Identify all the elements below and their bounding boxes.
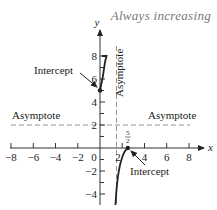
y-tick-label: −2 — [85, 165, 97, 177]
horizontal-asymptote-label-left: Asymptote — [12, 109, 60, 121]
svg-text:2: 2 — [126, 137, 130, 145]
svg-text:5: 5 — [126, 129, 130, 137]
x-intercept-annotation: Intercept — [130, 165, 169, 177]
x-tick-label: 0 — [91, 151, 97, 163]
y-intercept-annotation: Intercept — [34, 64, 73, 76]
x-axis-label: x — [207, 141, 213, 153]
y-tick-label: 4 — [92, 96, 98, 108]
y-tick-label: −4 — [85, 188, 97, 200]
x-tick-label: 2 — [115, 151, 121, 163]
x-tick-label: −2 — [72, 151, 84, 163]
upper-branch-curve — [100, 56, 107, 91]
x-tick-label: −8 — [5, 151, 17, 163]
y-tick-label: 8 — [92, 50, 98, 62]
function-graph: −8 −6 −4 −2 0 2 4 6 8 8 6 4 2 −2 −4 y x … — [0, 0, 217, 210]
horizontal-asymptote-label-right: Asymptote — [148, 109, 196, 121]
x-tick-label: −4 — [50, 151, 62, 163]
y-tick-label: 2 — [92, 119, 98, 131]
x-intercept-point — [126, 146, 130, 150]
y-intercept-point — [98, 88, 102, 92]
x-tick-label: 6 — [164, 151, 170, 163]
vertical-asymptote-label: Asymptote — [113, 49, 125, 97]
x-intercept-value-label: 5 2 — [125, 129, 131, 145]
x-tick-label: −6 — [27, 151, 39, 163]
x-tick-label: 8 — [186, 151, 192, 163]
y-axis-label: y — [94, 16, 100, 28]
x-tick-label: 4 — [142, 151, 148, 163]
